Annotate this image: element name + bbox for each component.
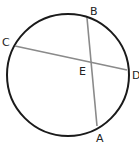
label-b: B [90,5,98,18]
label-e: E [79,65,86,78]
label-a: A [96,132,104,145]
chord-cd [15,46,127,70]
circle [7,14,129,136]
chord-ab [87,18,97,126]
circle-diagram: B C D E A [0,0,139,147]
label-d: D [132,69,139,82]
label-c: C [2,36,10,49]
